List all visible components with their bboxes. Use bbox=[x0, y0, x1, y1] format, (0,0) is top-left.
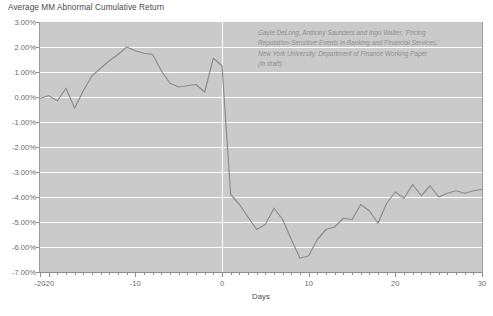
y-axis-tick-label: 3.00% bbox=[0, 18, 36, 27]
x-axis-tick-mark bbox=[387, 273, 388, 275]
x-axis-tick-mark bbox=[153, 273, 154, 275]
x-axis-tick-mark bbox=[248, 273, 249, 275]
citation-line-3: New York University, Department of Finan… bbox=[258, 49, 458, 59]
x-axis-tick-label: -10 bbox=[130, 279, 141, 288]
citation-line-4: (in draft) bbox=[258, 59, 458, 69]
x-axis-label: Days bbox=[252, 292, 270, 301]
x-axis-tick-mark-major bbox=[222, 273, 223, 277]
x-axis-tick-mark bbox=[421, 273, 422, 275]
x-axis-tick-mark bbox=[283, 273, 284, 275]
citation-line-1: Gayle DeLong, Anthony Saunders and Ingo … bbox=[258, 28, 458, 38]
x-axis-tick-label: -20 bbox=[43, 279, 54, 288]
x-axis-tick-mark bbox=[335, 273, 336, 275]
x-axis-tick-label: 10 bbox=[304, 279, 312, 288]
x-axis-tick-mark bbox=[369, 273, 370, 275]
x-axis-tick-mark bbox=[92, 273, 93, 275]
y-axis-tick-label: -4.00% bbox=[0, 193, 36, 202]
x-axis-tick-mark-major bbox=[40, 273, 41, 277]
y-axis-tick-label: -1.00% bbox=[0, 118, 36, 127]
x-axis-tick-mark bbox=[465, 273, 466, 275]
x-axis-tick-mark bbox=[257, 273, 258, 275]
plot-axis-bottom bbox=[39, 272, 483, 273]
chart-page: Average MM Abnormal Cumulative Return 3.… bbox=[0, 0, 493, 316]
x-axis-tick-mark bbox=[447, 273, 448, 275]
x-axis-tick-mark bbox=[326, 273, 327, 275]
x-axis-tick-mark bbox=[66, 273, 67, 275]
x-axis-tick-mark bbox=[274, 273, 275, 275]
x-axis-tick-mark-major bbox=[309, 273, 310, 277]
x-axis-tick-mark bbox=[101, 273, 102, 275]
x-axis-tick-mark-major bbox=[135, 273, 136, 277]
citation-line-2: Reputation-Sensitive Events in Banking a… bbox=[258, 38, 458, 48]
plot-axis-right bbox=[482, 22, 483, 273]
x-axis-tick-label: 20 bbox=[391, 279, 399, 288]
x-axis-tick-mark bbox=[291, 273, 292, 275]
x-axis-tick-mark bbox=[109, 273, 110, 275]
x-axis-tick-mark-major bbox=[395, 273, 396, 277]
x-axis-tick-mark bbox=[179, 273, 180, 275]
x-axis-tick-mark bbox=[343, 273, 344, 275]
x-axis-tick-mark bbox=[473, 273, 474, 275]
x-axis-tick-mark bbox=[187, 273, 188, 275]
y-axis-tick-label: -2.00% bbox=[0, 143, 36, 152]
y-axis-tick-label: 2.00% bbox=[0, 43, 36, 52]
x-axis-tick-mark bbox=[83, 273, 84, 275]
y-axis-tick-label: -6.00% bbox=[0, 243, 36, 252]
y-axis-tick-label: -3.00% bbox=[0, 168, 36, 177]
x-axis-tick-mark bbox=[378, 273, 379, 275]
x-axis-tick-mark bbox=[213, 273, 214, 275]
citation-annotation: Gayle DeLong, Anthony Saunders and Ingo … bbox=[258, 28, 458, 70]
x-axis-tick-mark bbox=[430, 273, 431, 275]
x-axis-tick-mark bbox=[352, 273, 353, 275]
x-axis-tick-mark bbox=[205, 273, 206, 275]
x-axis-tick-mark bbox=[265, 273, 266, 275]
y-axis-tick-label: 0.00% bbox=[0, 93, 36, 102]
x-axis-tick-mark bbox=[170, 273, 171, 275]
x-axis-tick-mark bbox=[413, 273, 414, 275]
x-axis-tick-mark bbox=[300, 273, 301, 275]
x-axis-tick-mark bbox=[196, 273, 197, 275]
x-axis-tick-mark-major bbox=[49, 273, 50, 277]
x-axis-tick-mark bbox=[127, 273, 128, 275]
x-axis-tick-mark bbox=[161, 273, 162, 275]
y-axis-tick-label: -5.00% bbox=[0, 218, 36, 227]
x-axis-tick-mark-major bbox=[482, 273, 483, 277]
y-axis: 3.00%2.00%1.00%0.00%-1.00%-2.00%-3.00%-4… bbox=[0, 0, 36, 316]
x-axis-tick-label: 0 bbox=[220, 279, 224, 288]
x-axis-tick-mark bbox=[404, 273, 405, 275]
x-axis-tick-mark bbox=[75, 273, 76, 275]
x-axis-tick-mark bbox=[57, 273, 58, 275]
x-axis-tick-mark bbox=[456, 273, 457, 275]
x-axis-tick-mark bbox=[439, 273, 440, 275]
x-axis-tick-mark bbox=[239, 273, 240, 275]
y-axis-tick-label: 1.00% bbox=[0, 68, 36, 77]
x-axis-tick-mark bbox=[317, 273, 318, 275]
x-axis-tick-mark bbox=[361, 273, 362, 275]
x-axis-tick-label: 30 bbox=[478, 279, 486, 288]
x-axis-tick-mark bbox=[118, 273, 119, 275]
x-axis-tick-mark bbox=[144, 273, 145, 275]
y-axis-tick-label: -7.00% bbox=[0, 268, 36, 277]
x-axis-tick-mark bbox=[231, 273, 232, 275]
